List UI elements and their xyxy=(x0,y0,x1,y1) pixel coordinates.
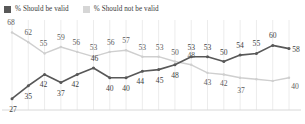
data-point-marker xyxy=(92,55,94,57)
data-point-marker xyxy=(157,68,160,71)
data-point-marker xyxy=(59,81,62,84)
legend-item-should-be-valid: % Should be valid xyxy=(4,5,69,13)
data-point-marker xyxy=(125,49,127,51)
data-point-marker xyxy=(272,80,274,82)
data-point-marker xyxy=(76,51,78,53)
data-point-marker xyxy=(11,97,14,100)
legend-item-should-not-be-valid: % Should not be valid xyxy=(83,5,159,13)
plot-area: 6862555956535657535350484342374027354237… xyxy=(0,18,305,124)
data-point-marker xyxy=(222,60,225,63)
gridlines xyxy=(12,20,289,110)
data-point-marker xyxy=(206,55,209,58)
data-point-marker xyxy=(239,54,242,57)
data-point-marker xyxy=(27,84,30,87)
series-line-should-be-valid xyxy=(12,45,289,98)
data-point-marker xyxy=(206,72,208,74)
data-point-marker xyxy=(141,55,143,57)
data-point-marker xyxy=(11,31,13,33)
data-point-marker xyxy=(190,64,192,66)
series-line-should-not-be-valid xyxy=(12,32,289,80)
legend-label-should-be-valid: % Should be valid xyxy=(15,5,69,13)
data-point-marker xyxy=(43,73,46,76)
data-point-marker xyxy=(92,67,95,70)
data-point-marker xyxy=(239,76,241,78)
data-point-marker xyxy=(288,47,291,50)
data-point-marker xyxy=(43,52,45,54)
data-point-marker xyxy=(157,55,159,57)
data-point-marker xyxy=(190,55,193,58)
legend-label-should-not-be-valid: % Should not be valid xyxy=(94,5,159,13)
data-point-marker xyxy=(173,63,176,66)
data-point-marker xyxy=(141,70,144,73)
series-markers-should-be-valid xyxy=(11,44,291,100)
data-point-marker xyxy=(125,76,128,79)
data-point-marker xyxy=(255,52,258,55)
legend-swatch-dark-icon xyxy=(4,6,11,13)
data-point-marker xyxy=(174,60,176,62)
data-point-marker xyxy=(76,73,79,76)
data-point-marker xyxy=(109,51,111,53)
data-point-marker xyxy=(255,78,257,80)
data-point-marker xyxy=(288,76,290,78)
legend-swatch-light-icon xyxy=(83,6,90,13)
data-point-marker xyxy=(271,44,274,47)
chart-container: % Should be valid % Should not be valid … xyxy=(0,0,305,124)
chart-legend: % Should be valid % Should not be valid xyxy=(4,2,159,16)
data-point-marker xyxy=(27,41,29,43)
data-point-marker xyxy=(223,73,225,75)
data-point-marker xyxy=(60,46,62,48)
line-chart-svg xyxy=(0,18,305,124)
data-point-marker xyxy=(108,76,111,79)
